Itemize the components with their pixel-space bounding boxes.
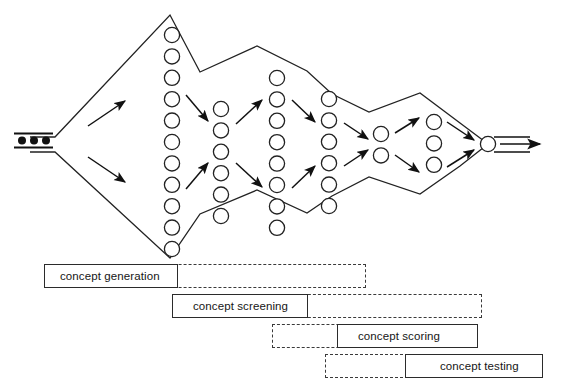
concept-circle-col3-1	[269, 70, 284, 85]
concept-circle-col3-6	[269, 177, 284, 192]
concept-circle-col1-2	[164, 49, 179, 64]
flow-arrows	[88, 95, 540, 189]
stage-concept-generation[interactable]: concept generation	[0, 264, 566, 288]
concept-circle-col5-1	[373, 126, 388, 141]
concept-circle-col1-11	[164, 241, 179, 256]
concept-circle-col2-5	[213, 187, 228, 202]
concept-circle-col3-7	[269, 199, 284, 214]
concept-circle-col4-4	[321, 156, 336, 171]
concept-circle-col1-10	[164, 220, 179, 235]
concept-circle-col1-7	[164, 156, 179, 171]
stage-concept-screening-label: concept screening	[193, 294, 288, 318]
arrow-c4-c5-upper	[344, 123, 368, 139]
concept-circle-col4-5	[321, 177, 336, 192]
concept-funnel-diagram: concept generationconcept screeningconce…	[0, 0, 566, 390]
concept-circle-col3-2	[269, 92, 284, 107]
funnel-outline-path	[30, 15, 488, 258]
stage-concept-testing[interactable]: concept testing	[0, 354, 566, 378]
input-dots	[14, 134, 53, 148]
concept-circle-col7-1	[480, 136, 495, 151]
stage-concept-generation-label: concept generation	[60, 264, 160, 288]
stage-concept-scoring-label: concept scoring	[358, 324, 440, 348]
concept-circle-col1-9	[164, 199, 179, 214]
stage-concept-testing-label: concept testing	[440, 354, 519, 378]
concept-circle-col1-1	[164, 27, 179, 42]
arrow-c2-c3-lower	[236, 163, 262, 187]
concept-circle-col2-3	[213, 144, 228, 159]
concept-circle-col6-1	[426, 114, 441, 129]
concept-circle-col4-3	[321, 134, 336, 149]
concept-circle-col3-3	[269, 113, 284, 128]
arrow-c4-c5-lower	[344, 150, 368, 166]
funnel-outline	[30, 15, 488, 258]
concept-circle-col6-3	[426, 157, 441, 172]
arrow-c3-c4-lower	[292, 166, 315, 188]
concept-circle-col1-3	[164, 70, 179, 85]
concept-circle-col1-4	[164, 92, 179, 107]
arrow-c1-c2-lower	[186, 163, 208, 189]
concept-circle-col3-4	[269, 135, 284, 150]
concept-circle-col3-8	[269, 220, 284, 235]
arrow-c5-c6-lower	[395, 155, 419, 172]
stage-concept-scoring[interactable]: concept scoring	[0, 324, 566, 348]
concept-circle-col1-6	[164, 134, 179, 149]
concept-circle-col6-2	[426, 136, 441, 151]
concept-circle-col2-2	[213, 123, 228, 138]
arrow-fan-up	[88, 101, 125, 126]
concept-circle-col1-8	[164, 177, 179, 192]
input-dot-2	[30, 137, 38, 145]
arrow-c2-c3-upper	[236, 100, 262, 124]
arrow-c5-c6-upper	[395, 118, 419, 133]
input-dot-1	[18, 137, 26, 145]
concept-circle-col2-6	[213, 208, 228, 223]
arrow-c1-c2-upper	[186, 95, 208, 121]
concept-circles	[164, 27, 495, 256]
stage-concept-screening[interactable]: concept screening	[0, 294, 566, 318]
input-dot-3	[42, 137, 50, 145]
concept-circle-col1-5	[164, 113, 179, 128]
arrow-c3-c4-upper	[292, 100, 315, 122]
concept-circle-col4-6	[321, 198, 336, 213]
concept-circle-col2-4	[213, 166, 228, 181]
concept-circle-col4-2	[321, 113, 336, 128]
concept-circle-col3-5	[269, 156, 284, 171]
concept-circle-col5-2	[373, 148, 388, 163]
arrow-fan-down	[88, 157, 125, 182]
concept-circle-col4-1	[321, 91, 336, 106]
concept-circle-col2-1	[213, 101, 228, 116]
